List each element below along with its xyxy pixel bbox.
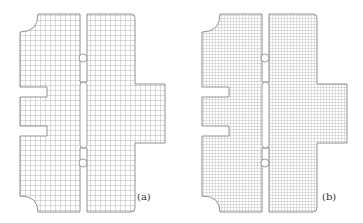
mesh-a	[0, 0, 181, 223]
panel-label: (a)	[137, 191, 151, 202]
panel-a: (a)	[0, 0, 181, 223]
panel-b: (b)	[182, 0, 363, 223]
mesh-b	[182, 0, 363, 223]
panel-label: (b)	[322, 191, 336, 202]
